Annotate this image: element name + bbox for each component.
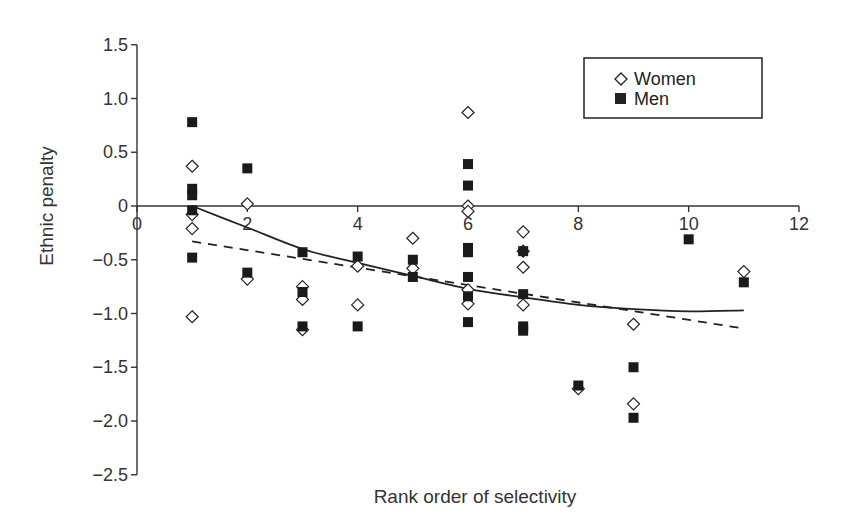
women-point <box>186 223 198 235</box>
men-point <box>187 253 197 263</box>
men-point <box>518 246 528 256</box>
men-point <box>463 159 473 169</box>
men-point <box>739 277 749 287</box>
y-tick-label: −1.0 <box>92 304 128 324</box>
y-tick-label: 0.5 <box>103 142 128 162</box>
men-point <box>298 287 308 297</box>
men-point <box>463 181 473 191</box>
x-tick-label: 0 <box>132 214 142 234</box>
legend-label-men: Men <box>634 89 669 109</box>
men-point <box>573 381 583 391</box>
women-point <box>517 226 529 238</box>
legend: Women Men <box>584 58 762 118</box>
women-point <box>517 261 529 273</box>
men-point <box>518 326 528 336</box>
men-point <box>353 252 363 262</box>
scatter-chart: 1.51.00.50−0.5−1.0−1.5−2.0−2.5 024681012… <box>0 0 851 525</box>
men-point <box>298 247 308 257</box>
y-tick-label: −2.0 <box>92 411 128 431</box>
y-tick-label: 0 <box>118 196 128 216</box>
men-point <box>463 317 473 327</box>
y-tick-label: −1.5 <box>92 357 128 377</box>
y-axis: 1.51.00.50−0.5−1.0−1.5−2.0−2.5 <box>92 35 137 485</box>
men-point <box>242 268 252 278</box>
men-point <box>629 413 639 423</box>
x-tick-label: 12 <box>789 214 809 234</box>
women-point <box>241 198 253 210</box>
women-point <box>186 311 198 323</box>
men-point <box>463 291 473 301</box>
women-point <box>628 398 640 410</box>
women-point <box>352 299 364 311</box>
men-point <box>463 272 473 282</box>
x-tick-label: 8 <box>573 214 583 234</box>
men-point <box>684 234 694 244</box>
men-point <box>629 362 639 372</box>
women-point <box>738 266 750 278</box>
men-point <box>408 255 418 265</box>
x-tick-label: 4 <box>353 214 363 234</box>
y-tick-label: −2.5 <box>92 465 128 485</box>
x-tick-label: 10 <box>679 214 699 234</box>
women-point <box>462 106 474 118</box>
y-tick-label: 1.5 <box>103 35 128 55</box>
men-point <box>187 117 197 127</box>
men-point <box>242 163 252 173</box>
men-point <box>463 247 473 257</box>
men-point <box>298 321 308 331</box>
x-tick-label: 2 <box>242 214 252 234</box>
women-point <box>186 160 198 172</box>
y-tick-label: −0.5 <box>92 250 128 270</box>
women-point <box>517 299 529 311</box>
men-point <box>518 289 528 299</box>
y-axis-title: Ethnic penalty <box>36 146 57 266</box>
x-axis-title: Rank order of selectivity <box>374 486 577 507</box>
men-point <box>187 190 197 200</box>
women-point <box>628 318 640 330</box>
data-points <box>186 106 750 422</box>
men-point <box>187 205 197 215</box>
filled-square-icon <box>615 93 626 104</box>
y-tick-label: 1.0 <box>103 89 128 109</box>
women-point <box>407 232 419 244</box>
men-point <box>353 321 363 331</box>
men-point <box>408 272 418 282</box>
legend-label-women: Women <box>634 69 696 89</box>
